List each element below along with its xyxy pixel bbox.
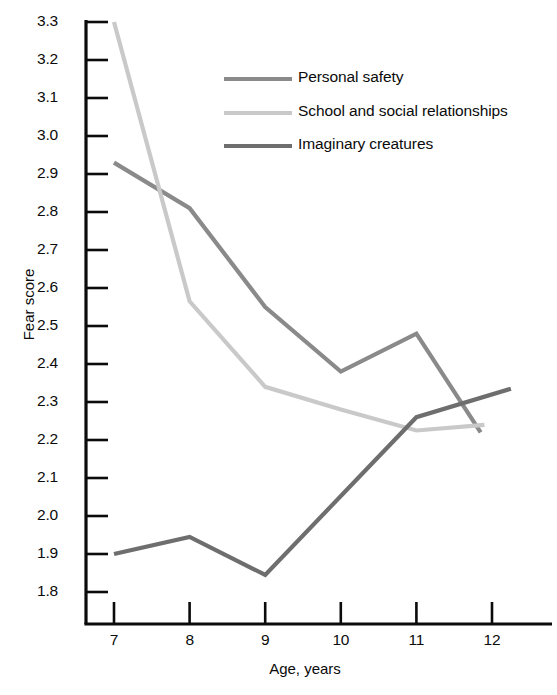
y-axis-ticks — [86, 22, 108, 592]
y-tick-label: 2.9 — [12, 164, 58, 182]
y-tick-label: 1.8 — [12, 582, 58, 600]
x-tick-label: 8 — [170, 631, 210, 649]
y-tick-label: 2.8 — [12, 202, 58, 220]
x-tick-label: 12 — [472, 631, 512, 649]
y-tick-label: 3.2 — [12, 50, 58, 68]
y-tick-label: 1.9 — [12, 544, 58, 562]
y-tick-label: 3.3 — [12, 12, 58, 30]
series-line-0 — [114, 163, 481, 433]
legend-swatches — [224, 79, 292, 146]
x-axis-ticks — [114, 602, 492, 624]
x-tick-label: 11 — [396, 631, 436, 649]
y-tick-label: 3.1 — [12, 88, 58, 106]
y-tick-label: 3.0 — [12, 126, 58, 144]
y-tick-label: 2.3 — [12, 392, 58, 410]
x-tick-label: 10 — [321, 631, 361, 649]
fear-score-line-chart: 1.81.92.02.12.22.32.42.52.62.72.82.93.03… — [0, 0, 557, 695]
y-tick-label: 2.0 — [12, 506, 58, 524]
y-tick-label: 2.2 — [12, 430, 58, 448]
legend-label-1: School and social relationships — [298, 102, 508, 120]
y-tick-label: 2.1 — [12, 468, 58, 486]
x-axis-title: Age, years — [190, 660, 420, 677]
legend-label-0: Personal safety — [298, 68, 403, 86]
y-axis-title: Fear score — [20, 245, 37, 365]
x-tick-label: 9 — [245, 631, 285, 649]
x-tick-label: 7 — [94, 631, 134, 649]
legend-label-2: Imaginary creatures — [298, 135, 433, 153]
series-line-2 — [114, 389, 511, 575]
